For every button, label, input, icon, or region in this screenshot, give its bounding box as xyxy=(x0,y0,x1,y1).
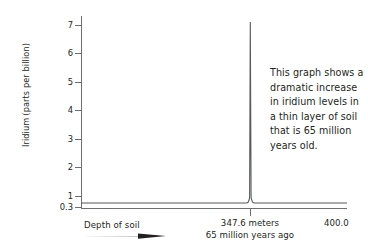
x-axis-label: Depth of soil xyxy=(80,220,172,231)
y-tick-6: 6 xyxy=(52,49,73,58)
y-tick-7: 7 xyxy=(52,21,73,30)
y-axis-title-line2: (parts per billion) xyxy=(21,43,31,116)
x-axis-label-group: Depth of soil xyxy=(80,220,172,240)
y-tick-4: 4 xyxy=(52,106,73,115)
y-tick-label-0-3: 0.3 xyxy=(52,203,73,211)
chart-caption: This graph shows a dramatic increase in … xyxy=(270,66,368,154)
right-arrow-icon xyxy=(80,232,168,240)
x-tick-label-347-6-line2: 65 million years ago xyxy=(186,230,314,242)
x-tick-mark-347-6 xyxy=(250,209,251,216)
y-tick-1: 1 xyxy=(52,192,73,201)
x-tick-label-347-6: 347.6 meters 65 million years ago xyxy=(186,218,314,241)
y-axis-title: Iridium (parts per billion) xyxy=(13,35,39,155)
y-tick-0-3: 0.3 xyxy=(52,203,73,212)
x-axis-line xyxy=(81,208,347,209)
y-tick-label-3: 3 xyxy=(52,135,73,143)
y-tick-label-2: 2 xyxy=(52,163,73,171)
y-tick-label-4: 4 xyxy=(52,106,73,114)
y-tick-5: 5 xyxy=(52,78,73,87)
y-tick-label-6: 6 xyxy=(52,49,73,57)
x-tick-label-347-6-line1: 347.6 meters xyxy=(186,218,314,230)
y-tick-label-7: 7 xyxy=(52,21,73,29)
y-tick-label-1: 1 xyxy=(52,192,73,200)
y-axis-title-line1: Iridium xyxy=(21,118,31,147)
y-tick-3: 3 xyxy=(52,135,73,144)
y-tick-2: 2 xyxy=(52,163,73,172)
y-tick-label-5: 5 xyxy=(52,78,73,86)
x-tick-label-400: 400.0 xyxy=(324,218,349,230)
